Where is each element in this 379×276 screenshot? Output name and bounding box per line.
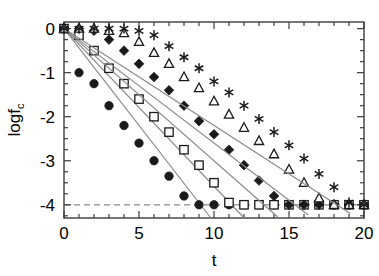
- marker-open-square: [195, 161, 203, 169]
- marker-filled-circle: [180, 192, 188, 200]
- y-tick-label: -4: [40, 196, 55, 215]
- marker-open-square: [135, 95, 143, 103]
- marker-filled-circle: [120, 121, 128, 129]
- marker-open-triangle: [209, 96, 218, 105]
- marker-open-triangle: [164, 59, 173, 68]
- marker-asterisk: [255, 114, 264, 124]
- marker-filled-circle: [150, 157, 158, 165]
- y-tick-label: 0: [46, 20, 55, 39]
- marker-filled-circle: [210, 201, 218, 209]
- marker-asterisk: [315, 169, 324, 179]
- series-line: [64, 29, 350, 214]
- marker-open-square: [225, 198, 233, 206]
- chart-figure: 051015200-1-2-3-4tlogfc: [0, 0, 379, 276]
- marker-open-triangle: [269, 149, 278, 158]
- x-axis-title: t: [212, 251, 217, 270]
- marker-filled-diamond: [209, 130, 219, 140]
- y-tick-label: -2: [40, 108, 55, 127]
- marker-open-triangle: [254, 136, 263, 145]
- marker-asterisk: [270, 127, 279, 137]
- y-axis-title-text: logfc: [5, 103, 26, 136]
- marker-asterisk: [330, 182, 339, 192]
- marker-asterisk: [225, 87, 234, 97]
- y-axis-title-sub: c: [14, 103, 26, 109]
- marker-open-square: [165, 128, 173, 136]
- plot-frame: [64, 22, 364, 218]
- y-tick-label: -1: [40, 64, 55, 83]
- marker-asterisk: [120, 24, 129, 34]
- marker-asterisk: [300, 154, 309, 164]
- marker-asterisk: [165, 41, 174, 51]
- marker-open-square: [210, 179, 218, 187]
- series-filled-circles: [60, 24, 368, 218]
- marker-filled-diamond: [149, 72, 159, 82]
- y-tick-label: -3: [40, 152, 55, 171]
- marker-filled-diamond: [119, 46, 129, 56]
- marker-open-triangle: [179, 72, 188, 81]
- marker-open-triangle: [149, 48, 158, 57]
- marker-filled-circle: [75, 68, 83, 76]
- marker-open-square: [270, 201, 278, 209]
- x-tick-label: 0: [59, 224, 68, 243]
- marker-asterisk: [285, 140, 294, 150]
- series-filled-diamonds: [59, 24, 369, 217]
- marker-asterisk: [195, 63, 204, 73]
- x-tick-label: 10: [205, 224, 224, 243]
- marker-open-triangle: [224, 109, 233, 118]
- marker-filled-circle: [165, 172, 173, 180]
- series-open-squares: [60, 24, 368, 218]
- marker-open-triangle: [194, 83, 203, 92]
- series-line: [64, 29, 278, 217]
- marker-open-square: [240, 201, 248, 209]
- marker-filled-diamond: [269, 191, 279, 201]
- marker-asterisk: [135, 26, 144, 36]
- marker-filled-circle: [105, 101, 113, 109]
- x-tick-label: 20: [355, 224, 374, 243]
- x-tick-label: 5: [134, 224, 143, 243]
- marker-open-square: [150, 112, 158, 120]
- marker-filled-diamond: [134, 59, 144, 69]
- marker-asterisk: [150, 30, 159, 40]
- marker-filled-diamond: [104, 35, 114, 45]
- marker-filled-diamond: [224, 145, 234, 155]
- marker-filled-circle: [195, 201, 203, 209]
- marker-filled-circle: [135, 139, 143, 147]
- marker-open-square: [180, 146, 188, 154]
- marker-asterisk: [240, 101, 249, 111]
- marker-open-triangle: [134, 37, 143, 46]
- marker-asterisk: [210, 76, 219, 86]
- x-tick-label: 15: [280, 224, 299, 243]
- plot-canvas: 051015200-1-2-3-4tlogfc: [0, 0, 379, 276]
- y-axis-title: logfc: [5, 103, 26, 136]
- marker-open-square: [255, 201, 263, 209]
- marker-asterisk: [180, 52, 189, 62]
- marker-filled-circle: [90, 79, 98, 87]
- marker-open-triangle: [314, 193, 323, 202]
- marker-open-triangle: [239, 123, 248, 132]
